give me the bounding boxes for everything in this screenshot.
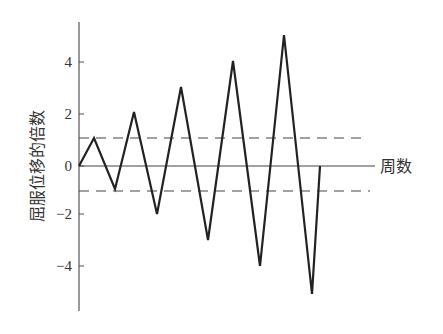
y-tick-label: 0 [65,158,73,174]
y-tick-label: −4 [56,258,72,274]
y-tick-label: 2 [65,106,73,122]
y-tick-label: 4 [65,54,73,70]
x-axis-label: 周数 [380,157,412,176]
y-tick-label: −2 [56,206,72,222]
loading-history-line [79,35,320,294]
y-axis-label: 屈服位移的倍数 [28,110,47,222]
chart: 4 2 0 −2 −4 屈服位移的倍数 周数 [0,0,443,334]
